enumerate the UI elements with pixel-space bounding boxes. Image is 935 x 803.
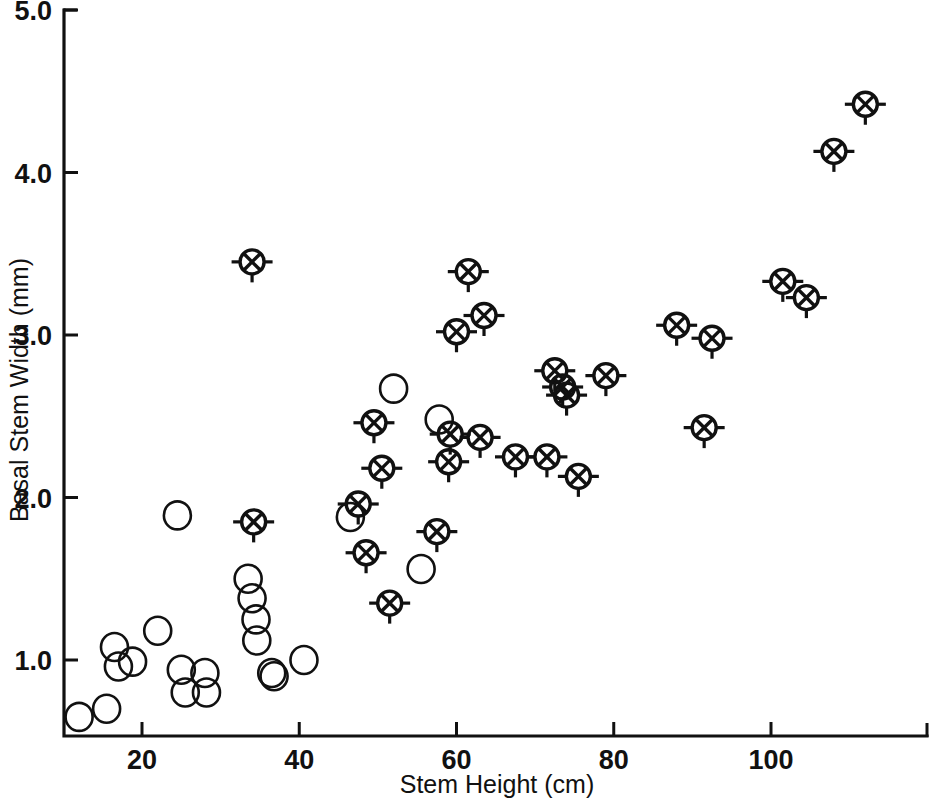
x-tick-label: 80 [599, 745, 629, 775]
open-circle-marker [235, 565, 262, 593]
data-point-open-circle [235, 565, 262, 593]
open-circle-marker [119, 648, 146, 676]
data-point-crossed-circle [353, 411, 394, 444]
data-point-crossed-circle [684, 416, 725, 449]
data-point-crossed-circle [585, 364, 626, 397]
data-point-open-circle [380, 375, 407, 403]
data-point-crossed-circle [416, 520, 457, 553]
data-point-open-circle [193, 678, 220, 706]
data-point-crossed-circle [656, 313, 697, 346]
data-point-crossed-circle [361, 456, 402, 489]
data-point-open-circle [93, 695, 120, 723]
open-circle-marker [408, 555, 435, 583]
data-point-crossed-circle [762, 269, 803, 302]
plot-canvas: 1.02.03.04.05.020406080100 Stem Height (… [0, 0, 935, 803]
open-circle-marker [66, 703, 93, 731]
data-point-crossed-circle [338, 492, 379, 525]
data-point-open-circle [101, 633, 128, 661]
data-point-open-circle [290, 646, 317, 674]
data-point-crossed-circle [813, 139, 854, 172]
data-point-crossed-circle [526, 445, 567, 478]
y-axis-title: Basal Stem Width (mm) [5, 258, 33, 522]
data-point-crossed-circle [448, 260, 489, 293]
open-circle-marker [93, 695, 120, 723]
data-point-crossed-circle [460, 425, 501, 458]
y-tick-label: 4.0 [14, 159, 52, 189]
open-circle-marker [380, 375, 407, 403]
data-point-crossed-circle [692, 326, 733, 359]
axis-spine [64, 10, 927, 736]
data-point-open-circle [105, 652, 132, 680]
data-point-crossed-circle [346, 541, 387, 574]
axes [63, 10, 927, 737]
data-point-crossed-circle [845, 92, 886, 125]
data-point-crossed-circle [558, 464, 599, 497]
scatter-plot-figure: 1.02.03.04.05.020406080100 Stem Height (… [0, 0, 935, 803]
data-point-open-circle [119, 648, 146, 676]
data-point-open-circle [408, 555, 435, 583]
data-points [66, 92, 886, 731]
open-circle-marker [105, 652, 132, 680]
series-open-circle [66, 375, 453, 731]
open-circle-marker [239, 584, 266, 612]
open-circle-marker [243, 626, 270, 654]
data-point-open-circle [164, 501, 191, 529]
x-tick-label: 100 [748, 745, 793, 775]
data-point-crossed-circle [495, 445, 536, 478]
x-tick-label: 20 [127, 745, 157, 775]
open-circle-marker [164, 501, 191, 529]
data-point-crossed-circle [436, 320, 477, 353]
data-point-crossed-circle [232, 250, 273, 283]
y-tick-label: 1.0 [14, 646, 52, 676]
data-point-open-circle [243, 626, 270, 654]
series-crossed-circle [232, 92, 886, 623]
x-tick-label: 40 [284, 745, 314, 775]
axis-tick-labels: 1.02.03.04.05.020406080100 [14, 0, 793, 775]
open-circle-marker [290, 646, 317, 674]
open-circle-marker [101, 633, 128, 661]
data-point-open-circle [239, 584, 266, 612]
data-point-crossed-circle [369, 591, 410, 624]
open-circle-marker [144, 617, 171, 645]
data-point-open-circle [144, 617, 171, 645]
open-circle-marker [193, 678, 220, 706]
data-point-crossed-circle [233, 510, 274, 543]
y-tick-label: 5.0 [14, 0, 52, 26]
x-axis-title: Stem Height (cm) [400, 770, 594, 798]
data-point-open-circle [66, 703, 93, 731]
